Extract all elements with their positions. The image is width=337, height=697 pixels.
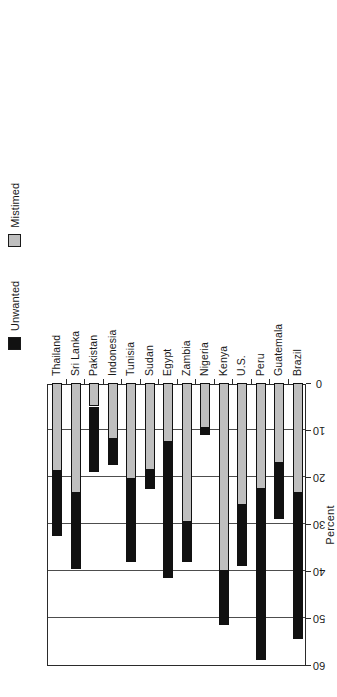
value-tick [306,383,311,384]
bar-row [126,385,136,665]
category-tick [140,379,141,384]
category-tick [158,379,159,384]
category-label: Egypt [161,349,173,376]
category-tick [232,379,233,384]
category-tick [177,379,178,384]
category-label: Peru [254,353,266,376]
bar-row [52,385,62,665]
bar-row [293,385,303,665]
bar-segment-mistimed [219,383,229,571]
bar-row [182,385,192,665]
category-tick [288,379,289,384]
bar-segment-mistimed [71,383,81,493]
value-axis-title: Percent [324,384,336,666]
category-axis: BrazilGuatemalaPeruU.S.KenyaNigeriaZambi… [47,360,306,384]
gray-square-icon [8,234,21,247]
category-label: Zambia [180,340,192,376]
bar-segment-unwanted [71,493,81,568]
category-tick [269,379,270,384]
rotated-figure-wrapper: Unwanted Mistimed 0102030405060 Percent … [0,0,337,697]
bar-segment-mistimed [52,383,62,471]
bar-segment-mistimed [163,383,173,442]
value-tick [306,571,311,572]
bar-segment-unwanted [108,439,118,465]
category-label: Tunisia [124,342,136,376]
category-label: Nigeria [198,342,210,376]
bar-row [237,385,247,665]
stacked-bar-chart: Unwanted Mistimed 0102030405060 Percent … [0,0,337,697]
bar-segment-unwanted [126,479,136,561]
category-label: Pakistan [87,335,99,376]
value-tick [306,477,311,478]
bar-segment-unwanted [89,407,99,473]
category-label: Sudan [143,345,155,376]
bar-row [71,385,81,665]
legend-entry-mistimed: Mistimed [8,183,21,247]
black-square-icon [8,337,21,350]
category-tick [195,379,196,384]
value-tick [306,618,311,619]
bar-segment-unwanted [274,463,284,519]
bar-segment-unwanted [219,571,229,625]
bar-segment-mistimed [256,383,266,489]
bar-segment-mistimed [126,383,136,479]
bar-segment-unwanted [237,505,247,566]
bar-segment-unwanted [256,489,266,661]
bar-row [274,385,284,665]
bar-segment-mistimed [182,383,192,522]
category-label: Kenya [217,346,229,376]
bar-segment-unwanted [182,522,192,562]
bar-segment-mistimed [237,383,247,505]
category-label: Indonesia [106,330,118,376]
bar-segment-mistimed [274,383,284,463]
legend-label-mistimed: Mistimed [9,183,21,228]
bar-segment-unwanted [293,493,303,639]
bar-segment-mistimed [108,383,118,439]
category-label: U.S. [235,355,247,376]
bar-segment-unwanted [52,471,62,536]
category-tick [121,379,122,384]
category-tick [84,379,85,384]
bar-row [219,385,229,665]
bar-segment-mistimed [145,383,155,470]
value-tick [306,524,311,525]
category-tick [214,379,215,384]
bar-segment-mistimed [293,383,303,493]
category-label: Brazil [291,349,303,376]
bar-row [145,385,155,665]
bar-row [89,385,99,665]
category-tick [103,379,104,384]
bar-row [108,385,118,665]
plot-area [47,384,306,666]
bar-row [256,385,266,665]
chart-legend: Unwanted Mistimed [8,183,21,350]
category-label: Guatemala [272,324,284,376]
value-tick [306,665,311,666]
bar-segment-unwanted [145,470,155,489]
category-label: Thailand [50,335,62,376]
bar-segment-unwanted [200,428,210,435]
category-tick [251,379,252,384]
value-tick-label: 0 [316,378,322,390]
category-tick [66,379,67,384]
legend-label-unwanted: Unwanted [9,281,21,331]
category-label: Sri Lanka [69,331,81,376]
value-tick [306,430,311,431]
bar-segment-mistimed [89,383,99,407]
legend-entry-unwanted: Unwanted [8,281,21,350]
bar-segment-mistimed [200,383,210,428]
bar-row [163,385,173,665]
bars-layer [48,385,305,665]
bar-row [200,385,210,665]
bar-segment-unwanted [163,442,173,578]
